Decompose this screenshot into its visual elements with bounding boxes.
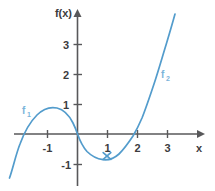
x-axis-label: x (196, 142, 203, 154)
y-axis-arrowhead (74, 9, 82, 17)
x-tick-label-2: 2 (134, 142, 140, 154)
y-axis (74, 9, 82, 186)
function-curve (10, 14, 176, 178)
x-tick-label-neg1: -1 (43, 142, 53, 154)
curve-label-f2-subscript: 2 (166, 75, 170, 82)
y-tick-label-3: 3 (63, 39, 69, 51)
y-tick-label-2: 2 (63, 69, 69, 81)
x-tick-label-1: 1 (104, 142, 110, 154)
curve-label-f1-subscript: 1 (27, 111, 31, 118)
y-tick-label-neg1: -1 (61, 159, 71, 171)
function-graph-figure: -1 1 2 3 3 2 1 -1 f(x) x f 1 f 2 (0, 0, 215, 191)
curve-label-f2: f 2 (161, 69, 170, 82)
x-tick-label-3: 3 (164, 142, 170, 154)
y-axis-label: f(x) (55, 7, 72, 19)
x-axis-arrowhead (197, 130, 205, 138)
curve-label-f1: f 1 (22, 105, 31, 118)
curve-label-f2-base: f (161, 69, 165, 80)
y-tick-label-1: 1 (63, 99, 69, 111)
x-axis (14, 130, 205, 138)
curve-label-f1-base: f (22, 105, 26, 116)
plot-canvas: -1 1 2 3 3 2 1 -1 f(x) x f 1 f 2 (0, 0, 215, 191)
